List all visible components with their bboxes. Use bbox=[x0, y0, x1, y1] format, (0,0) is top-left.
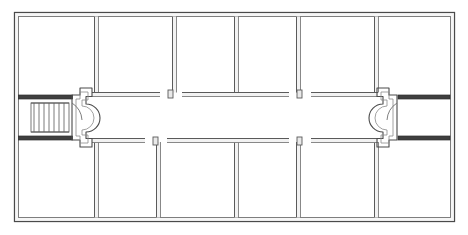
stair-left-top-wall bbox=[19, 95, 73, 99]
pier-lower-2 bbox=[297, 137, 302, 145]
pier-lower-1 bbox=[153, 137, 158, 145]
partition-upper-3 bbox=[234, 17, 239, 93]
partition-upper-4 bbox=[296, 17, 301, 93]
floor-plan-canvas bbox=[0, 0, 468, 235]
partition-lower-5 bbox=[374, 142, 379, 218]
partition-lower-3 bbox=[234, 142, 239, 218]
pier-upper-1 bbox=[168, 90, 173, 98]
partition-upper-2 bbox=[172, 17, 177, 93]
partition-upper-5 bbox=[374, 17, 379, 93]
stair-right-top-wall bbox=[398, 95, 450, 99]
pier-upper-2 bbox=[297, 90, 302, 98]
partition-lower-2 bbox=[156, 142, 161, 218]
partition-lower-1 bbox=[94, 142, 99, 218]
stair-left-bottom-wall bbox=[19, 136, 73, 140]
partition-upper-1 bbox=[94, 17, 99, 93]
partition-lower-4 bbox=[296, 142, 301, 218]
floor-plan-drawing: Building Floor Plan bbox=[0, 0, 468, 235]
stair-right-bottom-wall bbox=[398, 136, 450, 140]
